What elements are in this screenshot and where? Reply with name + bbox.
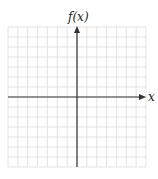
coordinate-plane: f(x) x bbox=[0, 0, 158, 179]
x-axis-label: x bbox=[148, 90, 155, 104]
x-axis-arrow-icon bbox=[139, 94, 146, 100]
y-axis-label: f(x) bbox=[67, 10, 89, 24]
